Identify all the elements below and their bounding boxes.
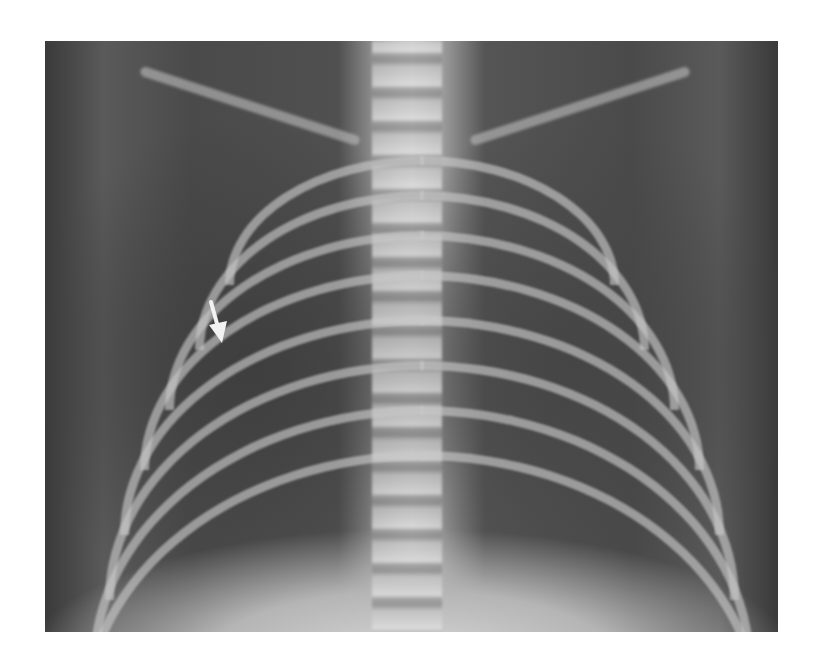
right-clavicle: [139, 66, 361, 147]
arrow-annotation-icon: [205, 299, 235, 349]
left-clavicle: [469, 66, 691, 147]
chest-xray-image: [45, 41, 778, 632]
